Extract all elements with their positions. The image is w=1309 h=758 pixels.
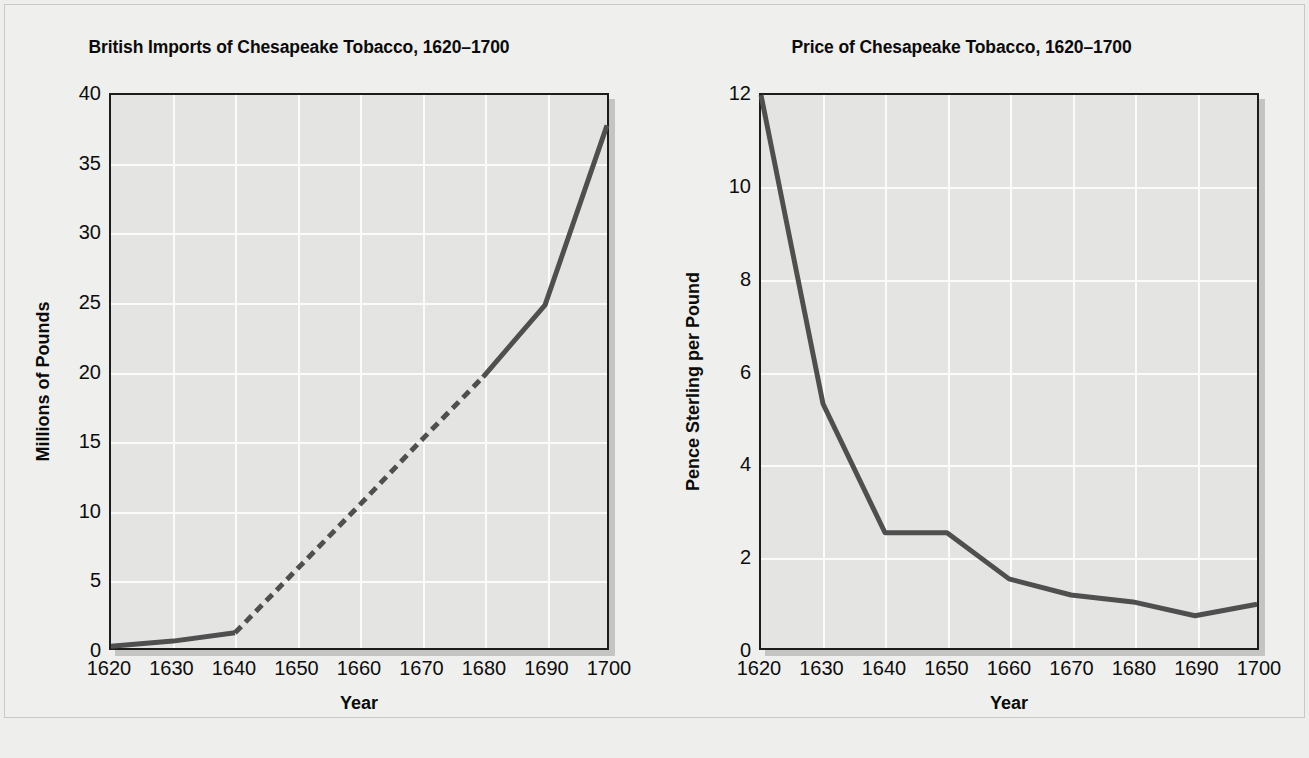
x-axis-label-price: Year bbox=[759, 693, 1259, 714]
figure-page: British Imports of Chesapeake Tobacco, 1… bbox=[0, 0, 1309, 758]
figure-frame: British Imports of Chesapeake Tobacco, 1… bbox=[4, 4, 1305, 718]
x-axis-ticks-price: 162016301640165016601670168016901700 bbox=[655, 5, 1306, 719]
x-axis-label-imports: Year bbox=[109, 693, 609, 714]
x-axis-ticks-imports: 162016301640165016601670168016901700 bbox=[5, 5, 655, 719]
y-axis-label-imports: Millions of Pounds bbox=[33, 232, 54, 532]
x-tick-label: 1700 bbox=[569, 657, 649, 680]
chart-panel-imports: British Imports of Chesapeake Tobacco, 1… bbox=[5, 5, 655, 719]
y-axis-label-price: Pence Sterling per Pound bbox=[683, 232, 704, 532]
chart-panel-price: Price of Chesapeake Tobacco, 1620–1700 0… bbox=[655, 5, 1306, 719]
x-tick-label: 1700 bbox=[1219, 657, 1299, 680]
